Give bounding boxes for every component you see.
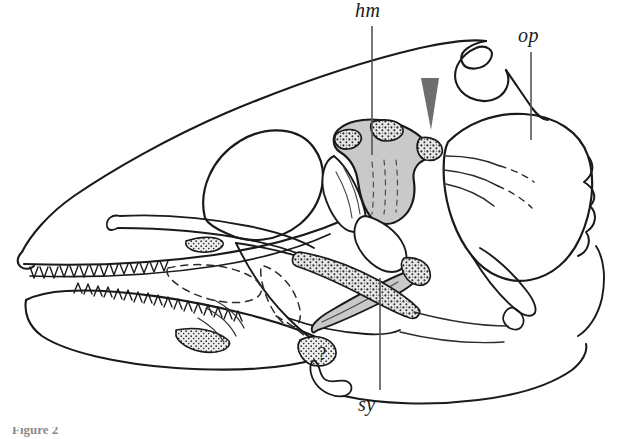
- orbit: [203, 130, 323, 240]
- label-op: op: [518, 24, 539, 47]
- figure-caption-text: Figure 2: [12, 427, 58, 438]
- figure-caption-clipped: Figure 2: [12, 427, 212, 439]
- skull-rear-edge: [506, 70, 548, 120]
- arrowhead-marker: [421, 78, 439, 130]
- infraorbital-anterior-cap: [107, 216, 120, 230]
- label-hm: hm: [355, 0, 380, 22]
- label-sy: sy: [358, 393, 376, 416]
- posterior-cranial-suture: [455, 41, 508, 101]
- lacrimal-element: [186, 237, 223, 252]
- mandible-ventral-edge: [26, 300, 320, 370]
- retroarticular: [176, 328, 230, 352]
- hyomandibula-dorsal-head: [371, 120, 403, 141]
- figure-container: ? hm op sy Figure 2: [0, 0, 617, 439]
- fish-skull-diagram: ?: [0, 0, 617, 439]
- uncertainty-mark-icon: ?: [318, 343, 326, 364]
- quadrate: [354, 216, 406, 272]
- hyomandibula-anterior-head: [335, 130, 362, 150]
- skull-outline-group: [18, 40, 606, 403]
- operculum: [444, 114, 593, 281]
- snout-tip: [18, 252, 34, 269]
- opercular-process: [417, 137, 442, 160]
